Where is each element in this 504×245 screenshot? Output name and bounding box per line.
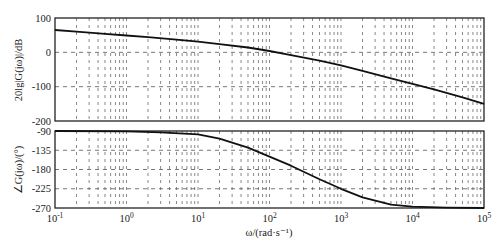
- y-tick-label: -225: [32, 183, 51, 194]
- y-tick-label: -270: [32, 203, 51, 214]
- phase-y-axis-label: ∠G(jω)/(°): [13, 145, 25, 194]
- magnitude-panel: 1000-100-200: [32, 13, 484, 127]
- x-axis-label: ω/(rad·s⁻¹): [246, 227, 293, 239]
- axis-labels: 10-1100101102103104105ω/(rad·s⁻¹)20lg|G(…: [13, 39, 491, 239]
- y-tick-label: -90: [37, 126, 51, 137]
- x-tick-label: 104: [405, 211, 420, 224]
- x-tick-label: 105: [477, 211, 492, 224]
- phase-panel: -90-135-180-225-270: [32, 126, 484, 214]
- y-tick-label: -100: [32, 81, 51, 92]
- x-tick-label: 101: [191, 211, 206, 224]
- magnitude-y-axis-label: 20lg|G(jω)|/dB: [13, 39, 25, 101]
- y-tick-label: 0: [46, 47, 51, 58]
- y-tick-label: -180: [32, 164, 51, 175]
- bode-plot: 1000-100-200 -90-135-180-225-270 10-1100…: [0, 0, 504, 245]
- x-tick-label: 102: [262, 211, 277, 224]
- x-tick-label: 10-1: [47, 211, 64, 224]
- y-tick-label: 100: [35, 13, 51, 24]
- x-tick-label: 100: [119, 211, 134, 224]
- y-tick-label: -135: [32, 145, 51, 156]
- x-tick-label: 103: [334, 211, 349, 224]
